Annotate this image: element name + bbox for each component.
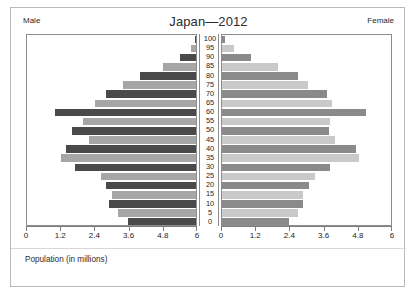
bar-row-female-age-50: [222, 126, 391, 135]
age-tick-label-100: 100: [200, 34, 220, 43]
x-tick-label-male-1.2: 1.2: [49, 231, 71, 240]
age-tick-label-40: 40: [200, 144, 220, 153]
bar-row-female-age-20: [222, 181, 391, 190]
bar-row-male-age-55: [27, 117, 196, 126]
bar-female-age-65: [222, 100, 332, 108]
age-tick-label-90: 90: [200, 52, 220, 61]
x-tick-label-male-4.8: 4.8: [152, 231, 174, 240]
bar-row-female-age-15: [222, 190, 391, 199]
bar-male-age-30: [75, 164, 196, 172]
age-tick-label-0: 0: [200, 217, 220, 226]
bar-row-male-age-85: [27, 62, 196, 71]
bar-female-age-20: [222, 182, 309, 190]
bar-row-female-age-85: [222, 62, 391, 71]
bar-row-male-age-75: [27, 81, 196, 90]
bar-female-age-0: [222, 218, 289, 226]
x-tick-label-female-1.2: 1.2: [244, 231, 266, 240]
bar-row-male-age-35: [27, 154, 196, 163]
bar-row-male-age-45: [27, 136, 196, 145]
bar-male-age-0: [128, 218, 196, 226]
x-tick-label-female-2.4: 2.4: [278, 231, 300, 240]
bar-male-age-5: [118, 209, 196, 217]
age-tick-label-5: 5: [200, 208, 220, 217]
figure-header: Male Japan—2012 Female: [11, 14, 406, 34]
bar-male-age-40: [66, 145, 196, 153]
bar-row-male-age-95: [27, 44, 196, 53]
bar-row-female-age-35: [222, 154, 391, 163]
bar-female-age-30: [222, 164, 330, 172]
bar-female-age-90: [222, 54, 251, 62]
age-tick-label-65: 65: [200, 98, 220, 107]
bar-row-female-age-95: [222, 44, 391, 53]
bar-female-age-95: [222, 45, 234, 53]
bar-row-female-age-60: [222, 108, 391, 117]
age-tick-label-80: 80: [200, 71, 220, 80]
bar-row-male-age-30: [27, 163, 196, 172]
bar-row-female-age-55: [222, 117, 391, 126]
age-tick-label-30: 30: [200, 162, 220, 171]
bar-male-age-45: [89, 136, 196, 144]
bar-row-female-age-90: [222, 53, 391, 62]
bar-row-female-age-80: [222, 72, 391, 81]
axis-caption: Population (in millions): [25, 255, 107, 264]
bar-male-age-80: [140, 72, 196, 80]
bar-male-age-60: [55, 109, 196, 117]
x-tick-label-male-3.6: 3.6: [118, 231, 140, 240]
age-tick-label-20: 20: [200, 180, 220, 189]
bar-female-age-100: [222, 36, 225, 44]
x-tick-label-male-0: 0: [15, 231, 37, 240]
bar-female-age-25: [222, 173, 315, 181]
bar-row-male-age-90: [27, 53, 196, 62]
bar-female-age-40: [222, 145, 356, 153]
age-tick-label-95: 95: [200, 43, 220, 52]
figure-frame: Male Japan—2012 Female 10095908580757065…: [10, 7, 405, 287]
bar-row-male-age-80: [27, 72, 196, 81]
bar-row-female-age-65: [222, 99, 391, 108]
bar-male-age-20: [106, 182, 196, 190]
bar-female-age-75: [222, 81, 308, 89]
bar-row-female-age-40: [222, 145, 391, 154]
bar-male-age-75: [123, 81, 196, 89]
age-tick-label-75: 75: [200, 80, 220, 89]
caption-divider: [11, 248, 406, 249]
bar-row-male-age-25: [27, 172, 196, 181]
age-axis-strip: 1009590858075706560555045403530252015105…: [199, 34, 219, 226]
age-tick-label-25: 25: [200, 171, 220, 180]
x-tick-label-female-4.8: 4.8: [347, 231, 369, 240]
age-tick-label-15: 15: [200, 189, 220, 198]
bar-male-age-25: [101, 173, 196, 181]
bar-female-age-80: [222, 72, 298, 80]
x-tick-label-male-2.4: 2.4: [83, 231, 105, 240]
male-plot-panel: [26, 34, 197, 226]
bar-male-age-50: [72, 127, 196, 135]
bar-female-age-50: [222, 127, 329, 135]
female-plot-panel: [221, 34, 392, 226]
bar-female-age-10: [222, 200, 303, 208]
bar-female-age-55: [222, 118, 330, 126]
bar-row-female-age-0: [222, 218, 391, 226]
bar-male-age-90: [180, 54, 196, 62]
page-title: Japan—2012: [11, 14, 406, 29]
bar-male-age-100: [195, 36, 196, 44]
age-tick-label-35: 35: [200, 153, 220, 162]
x-tick-label-female-0: 0: [210, 231, 232, 240]
bar-row-female-age-75: [222, 81, 391, 90]
age-tick-label-10: 10: [200, 199, 220, 208]
x-tick-label-female-6: 6: [381, 231, 403, 240]
bar-male-age-65: [95, 100, 196, 108]
age-tick-label-85: 85: [200, 61, 220, 70]
bar-row-male-age-0: [27, 218, 196, 226]
bar-female-age-5: [222, 209, 298, 217]
bar-row-male-age-10: [27, 200, 196, 209]
female-side-label: Female: [367, 16, 394, 25]
bar-row-female-age-70: [222, 90, 391, 99]
bar-row-male-age-15: [27, 190, 196, 199]
bar-male-age-35: [61, 154, 196, 162]
bar-female-age-15: [222, 191, 303, 199]
bar-row-female-age-45: [222, 136, 391, 145]
bar-male-age-70: [106, 90, 196, 98]
bar-row-male-age-60: [27, 108, 196, 117]
bar-row-male-age-100: [27, 35, 196, 44]
bar-row-female-age-100: [222, 35, 391, 44]
bar-female-age-60: [222, 109, 366, 117]
